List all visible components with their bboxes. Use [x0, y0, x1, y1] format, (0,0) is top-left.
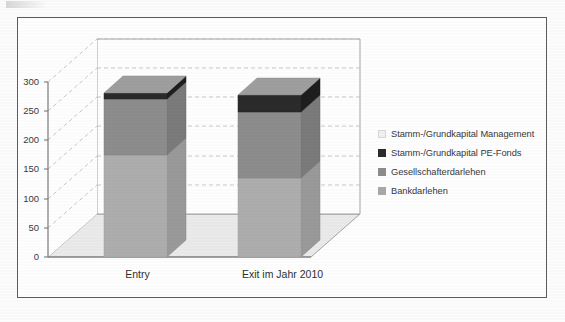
y-tick-label-0: 0: [5, 251, 39, 262]
legend-label-bankdarlehen: Bankdarlehen: [391, 186, 448, 196]
y-tick-label-150: 150: [5, 163, 39, 174]
legend-swatch-bankdarlehen: [378, 187, 386, 195]
bar-exit-im-jahr-2010[interactable]: [238, 78, 320, 257]
legend-item-stamm-grundkapital-management[interactable]: Stamm-/Grundkapital Management: [378, 126, 553, 142]
bar-exit-bankdarlehen-front: [238, 178, 301, 257]
y-tick-label-250: 250: [5, 105, 39, 116]
legend-item-stamm-grundkapital-pe-fonds[interactable]: Stamm-/Grundkapital PE-Fonds: [378, 145, 553, 161]
bar-entry-bankdarlehen-side: [167, 138, 186, 257]
bar-entry-pe-fonds-front: [104, 93, 167, 99]
y-tick-label-200: 200: [5, 134, 39, 145]
bar-entry-bankdarlehen-front: [104, 155, 167, 257]
legend-label-stamm-grundkapital-management: Stamm-/Grundkapital Management: [391, 129, 534, 139]
legend-item-bankdarlehen[interactable]: Bankdarlehen: [378, 183, 553, 199]
legend-label-gesellschafterdarlehen: Gesellschafterdarlehen: [391, 167, 486, 177]
x-category-label-entry: Entry: [95, 268, 180, 280]
legend-swatch-gesellschafterdarlehen: [378, 168, 386, 176]
chart-legend: Stamm-/Grundkapital Management Stamm-/Gr…: [378, 126, 553, 202]
bar-exit-pe-fonds-front: [238, 95, 301, 112]
y-tick-label-50: 50: [5, 222, 39, 233]
bar-exit-gesellschafterdarlehen-front: [238, 112, 301, 178]
legend-item-gesellschafterdarlehen[interactable]: Gesellschafterdarlehen: [378, 164, 553, 180]
x-category-label-exit: Exit im Jahr 2010: [215, 268, 350, 280]
y-axis: [44, 82, 48, 257]
y-tick-label-100: 100: [5, 193, 39, 204]
legend-swatch-stamm-grundkapital-pe-fonds: [378, 149, 386, 157]
legend-swatch-stamm-grundkapital-management: [378, 130, 386, 138]
bar-entry-gesellschafterdarlehen-front: [104, 99, 167, 155]
bar-entry[interactable]: [104, 76, 186, 257]
legend-label-stamm-grundkapital-pe-fonds: Stamm-/Grundkapital PE-Fonds: [391, 148, 521, 158]
y-tick-label-300: 300: [5, 76, 39, 87]
scanned-page: 300 250 200 150 100 50 0 Entry Exit im J…: [0, 0, 565, 322]
